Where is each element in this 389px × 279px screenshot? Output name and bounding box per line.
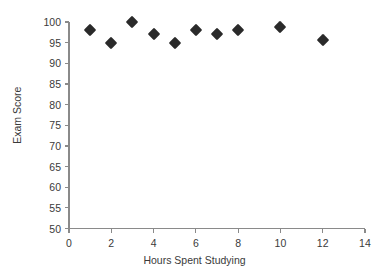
x-axis-tick-label: 0 — [66, 238, 72, 249]
x-axis-tick-label: 14 — [359, 238, 371, 249]
x-axis-title: Hours Spent Studying — [0, 255, 389, 266]
x-axis-tick-label: 4 — [151, 238, 157, 249]
y-axis-title: Exam Score — [12, 70, 23, 160]
y-axis-tick-label: 60 — [0, 182, 61, 193]
scatter-chart: 50556065707580859095100 02468101214 Exam… — [0, 0, 389, 279]
x-axis-tick-label: 6 — [193, 238, 199, 249]
y-axis-tick-label: 95 — [0, 37, 61, 48]
y-axis-tick-label: 65 — [0, 161, 61, 172]
x-axis-tick-label: 10 — [275, 238, 287, 249]
x-axis-tick-label: 2 — [108, 238, 114, 249]
y-axis-tick-label: 55 — [0, 203, 61, 214]
plot-area: 50556065707580859095100 02468101214 Exam… — [0, 0, 389, 279]
y-axis-tick-label: 90 — [0, 58, 61, 69]
y-axis-tick-label: 85 — [0, 79, 61, 90]
y-axis-tick-label: 50 — [0, 223, 61, 234]
y-axis-tick-label: 75 — [0, 120, 61, 131]
x-axis-tick-label: 12 — [317, 238, 329, 249]
y-axis-tick-label: 100 — [0, 17, 61, 28]
x-axis-tick-label: 8 — [235, 238, 241, 249]
y-axis-tick-label: 70 — [0, 141, 61, 152]
y-axis-tick-label: 80 — [0, 99, 61, 110]
